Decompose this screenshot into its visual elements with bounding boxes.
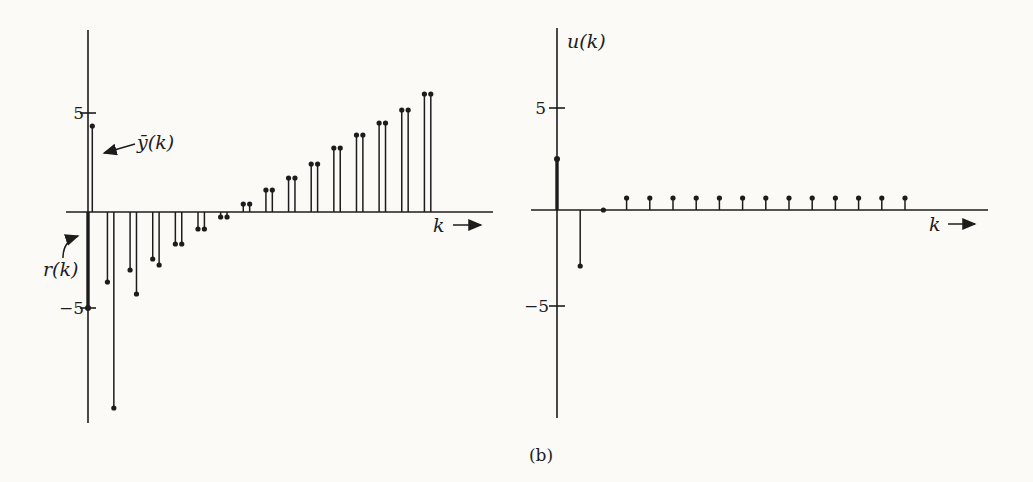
- right-title: u(k): [567, 30, 606, 52]
- stem-u-k1: [578, 210, 583, 269]
- stem-r-k9: [286, 175, 291, 212]
- right-stems-group: [554, 156, 908, 269]
- left-ytick-pos-label: 5: [73, 103, 84, 123]
- left-ytick-neg-label: −5: [59, 298, 84, 318]
- stem-ybar-k15: [428, 91, 433, 212]
- figure-container: 5 −5 ȳ(k) r(k) k u(k) 5 −5 k: [0, 0, 1033, 482]
- ybar-annotation-arrow: [104, 144, 135, 153]
- stem-u-k8: [740, 195, 745, 210]
- stem-r-k4: [173, 212, 178, 247]
- stem-u-k2: [601, 207, 606, 212]
- stem-r-k6: [218, 212, 223, 220]
- stem-r-k2: [127, 212, 132, 273]
- stem-u-k14: [879, 195, 884, 210]
- stem-ybar-k8: [270, 187, 275, 212]
- stem-ybar-k0: [90, 123, 95, 212]
- stem-r-k0: [85, 212, 91, 311]
- stem-ybar-k2: [134, 212, 139, 297]
- stem-u-k15: [902, 195, 907, 210]
- stem-plots-figure: 5 −5 ȳ(k) r(k) k u(k) 5 −5 k: [0, 0, 1033, 482]
- stem-ybar-k11: [338, 145, 343, 212]
- stem-r-k3: [150, 212, 155, 262]
- stem-u-k10: [786, 195, 791, 210]
- stem-u-k9: [763, 195, 768, 210]
- stem-r-k8: [263, 187, 268, 212]
- stem-u-k13: [856, 195, 861, 210]
- stem-u-k3: [624, 195, 629, 210]
- stem-r-k1: [105, 212, 110, 285]
- stem-ybar-k4: [179, 212, 184, 247]
- left-plot: 5 −5 ȳ(k) r(k) k: [43, 30, 493, 423]
- stem-r-k13: [377, 120, 382, 212]
- stem-r-k5: [195, 212, 200, 232]
- right-xlabel: k: [929, 213, 941, 235]
- stem-ybar-k7: [247, 201, 252, 212]
- ybar-annotation-label: ȳ(k): [136, 131, 174, 153]
- right-ytick-pos-label: 5: [535, 98, 546, 118]
- stem-ybar-k14: [406, 107, 411, 212]
- stem-r-k7: [241, 201, 246, 212]
- stem-r-k14: [399, 107, 404, 212]
- figure-caption: (b): [529, 445, 553, 465]
- right-plot: u(k) 5 −5 k: [524, 28, 988, 418]
- stem-ybar-k1: [111, 212, 116, 411]
- stem-ybar-k13: [383, 120, 388, 212]
- stem-ybar-k12: [360, 132, 365, 212]
- stem-u-k11: [810, 195, 815, 210]
- stem-ybar-k9: [292, 175, 297, 212]
- stem-u-k5: [670, 195, 675, 210]
- stem-u-k0: [554, 156, 560, 210]
- stem-u-k12: [833, 195, 838, 210]
- r-annotation-label: r(k): [43, 258, 78, 280]
- stem-ybar-k6: [224, 212, 229, 220]
- stem-u-k6: [694, 195, 699, 210]
- stem-ybar-k5: [202, 212, 207, 232]
- stem-ybar-k10: [315, 161, 320, 212]
- right-ytick-neg-label: −5: [524, 296, 549, 316]
- stem-u-k7: [717, 195, 722, 210]
- stem-ybar-k3: [157, 212, 162, 268]
- stem-r-k15: [422, 91, 427, 212]
- stem-u-k4: [647, 195, 652, 210]
- stem-r-k11: [331, 145, 336, 212]
- stem-r-k10: [309, 161, 314, 212]
- r-annotation-arrow: [63, 236, 78, 258]
- left-xlabel: k: [433, 214, 445, 236]
- stem-r-k12: [354, 132, 359, 212]
